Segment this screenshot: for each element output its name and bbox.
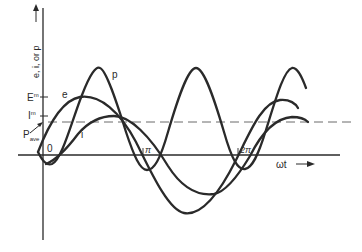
p-ave-label: Pave (23, 129, 40, 142)
current-curve-label: i (81, 129, 83, 140)
two-pi-label: 2π (239, 145, 252, 155)
origin-label: 0 (47, 143, 53, 154)
power-curve-label: p (112, 69, 118, 80)
x-axis-label: ωt (276, 159, 287, 170)
voltage-curve-label: e (62, 89, 68, 100)
e-max-label: Em (27, 92, 39, 103)
axes (18, 4, 352, 240)
x-label-arrowhead-icon (307, 161, 315, 167)
pi-label: π (145, 145, 152, 155)
y-label-arrowhead-icon (33, 4, 39, 11)
ac-power-diagram: e, i, or p ωt 0 π 2π Em Im Pave p e i (0, 0, 362, 252)
curves (38, 68, 308, 214)
y-axis-label: e, i, or p (31, 45, 41, 78)
i-max-label: Im (28, 110, 36, 121)
